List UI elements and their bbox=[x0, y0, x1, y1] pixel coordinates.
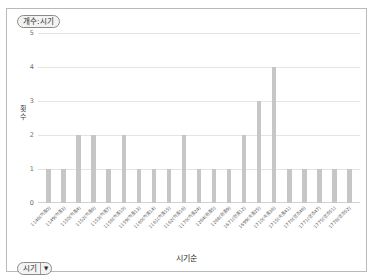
bar[interactable] bbox=[347, 169, 352, 203]
x-tick-slot: 1776(영조52) bbox=[342, 205, 357, 253]
x-tick-slot: 1268(원종9) bbox=[222, 205, 237, 253]
bar-slot bbox=[282, 33, 297, 203]
bar[interactable] bbox=[106, 169, 111, 203]
chart-screenshot: 개수:시기 횟수 5 4 3 2 1 0 1146(의종0)1149(의종3)1… bbox=[0, 0, 373, 280]
bar-slot bbox=[86, 33, 101, 203]
bar[interactable] bbox=[122, 135, 127, 203]
bar-slot bbox=[222, 33, 237, 203]
period-field-label: 시기 bbox=[23, 265, 37, 273]
legend-measure-pill[interactable]: 개수:시기 bbox=[17, 15, 60, 28]
bar-slot bbox=[176, 33, 191, 203]
bar[interactable] bbox=[197, 169, 202, 203]
legend-label: 개수:시기 bbox=[23, 18, 54, 26]
y-axis-title-char-2: 수 bbox=[18, 113, 28, 121]
bar[interactable] bbox=[227, 169, 232, 203]
bar-slot bbox=[237, 33, 252, 203]
bar[interactable] bbox=[257, 101, 262, 203]
x-tick-slot: 1152(의종6) bbox=[86, 205, 101, 253]
x-tick-slot: 1162(의종16) bbox=[176, 205, 191, 253]
bar[interactable] bbox=[152, 169, 157, 203]
bar[interactable] bbox=[272, 67, 277, 203]
bar-slot bbox=[191, 33, 206, 203]
bar[interactable] bbox=[137, 169, 142, 203]
bar-slot bbox=[71, 33, 86, 203]
bar-slot bbox=[327, 33, 342, 203]
bar-slot bbox=[312, 33, 327, 203]
x-tick-slot: 1150(의종4) bbox=[71, 205, 86, 253]
chart-frame: 개수:시기 횟수 5 4 3 2 1 0 1146(의종0)1149(의종3)1… bbox=[6, 8, 367, 272]
bar[interactable] bbox=[167, 169, 172, 203]
bar[interactable] bbox=[317, 169, 322, 203]
bar-slot bbox=[56, 33, 71, 203]
divider bbox=[40, 263, 41, 274]
bar-slot bbox=[116, 33, 131, 203]
bar-slot bbox=[342, 33, 357, 203]
bar-series bbox=[38, 33, 360, 203]
y-tick-label: 0 bbox=[30, 200, 34, 207]
chevron-down-icon[interactable]: ▼ bbox=[44, 266, 48, 272]
y-tick-label: 1 bbox=[30, 166, 34, 173]
x-tick-slot: 1160(의종14) bbox=[146, 205, 161, 253]
x-tick-slot: 1264(원종5) bbox=[207, 205, 222, 253]
y-tick-label: 4 bbox=[30, 64, 34, 71]
bar[interactable] bbox=[91, 135, 96, 203]
y-tick-label: 2 bbox=[30, 132, 34, 139]
y-tick-label: 3 bbox=[30, 98, 34, 105]
x-axis-title: 시기순 bbox=[7, 252, 366, 263]
bar[interactable] bbox=[212, 169, 217, 203]
y-axis-title-char-1: 횟 bbox=[18, 105, 28, 113]
bar[interactable] bbox=[287, 169, 292, 203]
bar[interactable] bbox=[242, 135, 247, 203]
period-field-dropdown[interactable]: 시기 ▼ bbox=[17, 262, 52, 275]
x-tick-slot: 1149(의종3) bbox=[56, 205, 71, 253]
x-tick-slot: 1156(의종10) bbox=[116, 205, 131, 253]
bar[interactable] bbox=[302, 169, 307, 203]
bar-slot bbox=[297, 33, 312, 203]
bar-slot bbox=[41, 33, 56, 203]
x-tick-slot: 1161(의종15) bbox=[161, 205, 176, 253]
bar[interactable] bbox=[182, 135, 187, 203]
bar-slot bbox=[207, 33, 222, 203]
bar-slot bbox=[252, 33, 267, 203]
bar[interactable] bbox=[61, 169, 66, 203]
bar[interactable] bbox=[76, 135, 81, 203]
bar[interactable] bbox=[46, 169, 51, 203]
bar-slot bbox=[267, 33, 282, 203]
bar[interactable] bbox=[332, 169, 337, 203]
x-tick-labels: 1146(의종0)1149(의종3)1150(의종4)1152(의종6)1153… bbox=[38, 205, 360, 253]
plot-area: 5 4 3 2 1 0 bbox=[38, 33, 360, 203]
x-tick-slot: 1159(의종13) bbox=[131, 205, 146, 253]
x-tick-slot: 1153(의종7) bbox=[101, 205, 116, 253]
x-tick-slot: 1146(의종0) bbox=[41, 205, 56, 253]
x-tick-slot: 1170(의종24) bbox=[191, 205, 206, 253]
y-axis-title: 횟수 bbox=[18, 105, 28, 121]
bar-slot bbox=[146, 33, 161, 203]
bar-slot bbox=[101, 33, 116, 203]
bar-slot bbox=[131, 33, 146, 203]
bar-slot bbox=[161, 33, 176, 203]
y-tick-label: 5 bbox=[30, 30, 34, 37]
x-tick-slot: 1671(현종12) bbox=[237, 205, 252, 253]
